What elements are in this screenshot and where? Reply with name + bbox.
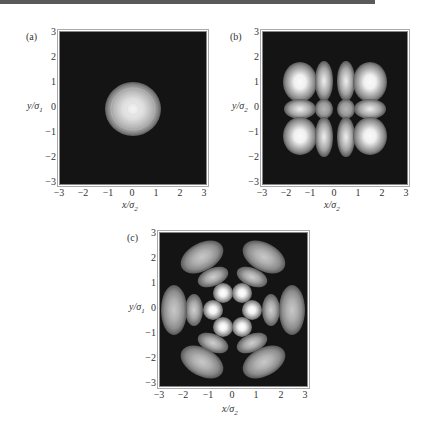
y-tick: −1 bbox=[144, 328, 156, 338]
y-tick: 2 bbox=[144, 253, 156, 263]
panel-label: (a) bbox=[26, 31, 37, 42]
y-tick: 0 bbox=[247, 102, 259, 112]
x-tick: −3 bbox=[152, 390, 166, 400]
y-tick: −1 bbox=[247, 127, 259, 137]
contour-plot bbox=[160, 233, 307, 386]
x-tick: 0 bbox=[225, 390, 239, 400]
panel-b: (b) bbox=[213, 0, 427, 210]
x-tick: 2 bbox=[173, 188, 187, 198]
y-tick: −1 bbox=[44, 127, 56, 137]
x-tick: 0 bbox=[125, 188, 139, 198]
panel-c: (c) bbox=[110, 210, 330, 422]
x-tick: −2 bbox=[76, 188, 90, 198]
y-tick: 0 bbox=[44, 102, 56, 112]
x-tick: 2 bbox=[274, 390, 288, 400]
x-tick: −2 bbox=[176, 390, 190, 400]
x-tick: −2 bbox=[279, 188, 293, 198]
y-axis-label: y/σ1 bbox=[129, 301, 145, 315]
x-tick: 3 bbox=[298, 390, 312, 400]
y-tick: −3 bbox=[44, 177, 56, 187]
y-tick: 3 bbox=[144, 228, 156, 238]
y-tick: −2 bbox=[144, 353, 156, 363]
x-tick: −1 bbox=[101, 188, 115, 198]
y-tick: 2 bbox=[247, 52, 259, 62]
x-tick: −1 bbox=[201, 390, 215, 400]
x-axis-label: x/σ2 bbox=[222, 403, 238, 417]
y-tick: −2 bbox=[44, 152, 56, 162]
y-tick: 0 bbox=[144, 303, 156, 313]
y-tick: −3 bbox=[144, 378, 156, 388]
y-tick: 1 bbox=[247, 77, 259, 87]
x-tick: 2 bbox=[375, 188, 389, 198]
y-tick: 2 bbox=[44, 52, 56, 62]
y-tick: 1 bbox=[144, 278, 156, 288]
plot-area bbox=[262, 31, 408, 185]
contour-plot bbox=[60, 32, 206, 184]
plot-area bbox=[159, 232, 308, 387]
x-tick: 1 bbox=[351, 188, 365, 198]
panel-label: (c) bbox=[127, 232, 138, 243]
x-tick: 1 bbox=[249, 390, 263, 400]
x-tick: 3 bbox=[197, 188, 211, 198]
y-axis-label: y/σ2 bbox=[232, 100, 248, 114]
x-tick: 3 bbox=[399, 188, 413, 198]
x-tick: −3 bbox=[52, 188, 66, 198]
y-tick: −2 bbox=[247, 152, 259, 162]
contour-plot bbox=[263, 32, 407, 184]
x-tick: 0 bbox=[327, 188, 341, 198]
x-tick: −1 bbox=[303, 188, 317, 198]
panel-label: (b) bbox=[230, 31, 242, 42]
x-tick: −3 bbox=[255, 188, 269, 198]
y-tick: 1 bbox=[44, 77, 56, 87]
y-tick: 3 bbox=[247, 27, 259, 37]
plot-area bbox=[59, 31, 207, 185]
x-tick: 1 bbox=[149, 188, 163, 198]
y-tick: −3 bbox=[247, 177, 259, 187]
y-tick: 3 bbox=[44, 27, 56, 37]
panel-a: (a) y/σ1 3 2 1 0 −1 −2 −3 −3 −2 −1 0 1 2 bbox=[0, 0, 213, 210]
y-axis-label: y/σ1 bbox=[27, 100, 43, 114]
